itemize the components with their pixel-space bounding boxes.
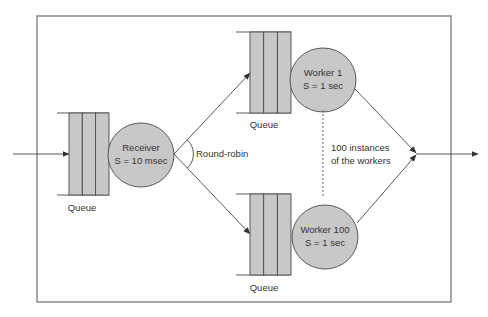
worker-1-queue-label: Queue <box>250 119 279 130</box>
worker-100-name: Worker 100 <box>301 224 350 235</box>
instances-note-line2: of the workers <box>331 155 391 166</box>
worker-1-name: Worker 1 <box>304 67 342 78</box>
worker-1-queue <box>236 32 291 113</box>
worker-100-service-time: S = 1 sec <box>305 237 345 248</box>
receiver-name: Receiver <box>122 142 160 153</box>
round-robin-arc <box>187 140 193 168</box>
worker-1-service-time: S = 1 sec <box>303 80 343 91</box>
receiver-service-time: S = 10 msec <box>114 155 167 166</box>
receiver-queue-label: Queue <box>68 202 97 213</box>
worker-100-queue-label: Queue <box>250 282 279 293</box>
queueing-diagram: Queue Receiver S = 10 msec Round-robin Q… <box>0 0 488 317</box>
instances-note-line1: 100 instances <box>331 142 390 153</box>
round-robin-label: Round-robin <box>196 148 248 159</box>
worker-100-queue <box>236 194 291 275</box>
dispatch-arrow-worker-1 <box>174 73 250 154</box>
